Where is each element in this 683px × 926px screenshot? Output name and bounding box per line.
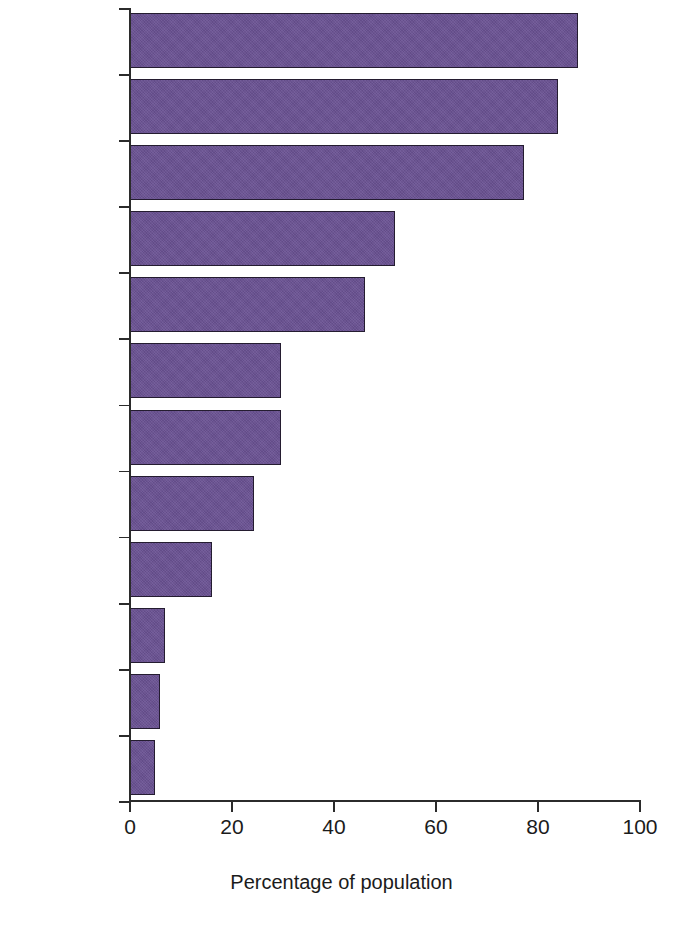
y-axis-tick [119, 8, 130, 10]
bar-argentina [130, 740, 155, 795]
x-axis-title: Percentage of population [0, 872, 683, 892]
x-axis-tick-label: 0 [124, 816, 136, 837]
y-axis-tick [119, 272, 130, 274]
bar-row: Liberia [130, 74, 640, 140]
x-axis-tick [129, 801, 131, 812]
x-axis-tick [639, 801, 641, 812]
y-axis-tick [119, 537, 130, 539]
x-axis-tick-label: 40 [322, 816, 345, 837]
bar-row: India [130, 206, 640, 272]
bar-brazil [130, 674, 160, 729]
bar-row: Argentina [130, 735, 640, 801]
y-axis-tick [119, 405, 130, 407]
x-axis-tick-label: 100 [622, 816, 657, 837]
bar-india [130, 211, 395, 266]
y-axis-tick [119, 603, 130, 605]
x-axis-tick-label: 80 [526, 816, 549, 837]
bar-row: Madagascar [130, 140, 640, 206]
y-axis-tick [119, 74, 130, 76]
y-axis-tick [119, 471, 130, 473]
bar-row: Burundi [130, 8, 640, 74]
y-axis-tick [119, 669, 130, 671]
y-axis-tick [119, 140, 130, 142]
y-axis-tick [119, 206, 130, 208]
bar-vietnam [130, 476, 254, 531]
x-axis-line [129, 800, 641, 802]
bar-pakistan [130, 410, 281, 465]
x-axis-tick-label: 60 [424, 816, 447, 837]
x-axis-tick [231, 801, 233, 812]
x-axis-tick [537, 801, 539, 812]
bar-indonesia [130, 343, 281, 398]
y-axis-tick [119, 338, 130, 340]
bar-row: Estonia [130, 603, 640, 669]
bar-liberia [130, 79, 558, 134]
bar-row: Vietnam [130, 471, 640, 537]
bar-ethiopia [130, 277, 365, 332]
bar-china [130, 542, 212, 597]
x-axis-tick [435, 801, 437, 812]
bar-burundi [130, 13, 578, 68]
bar-estonia [130, 608, 165, 663]
bar-chart: BurundiLiberiaMadagascarIndiaEthiopiaInd… [0, 0, 683, 926]
bar-row: Pakistan [130, 405, 640, 471]
y-axis-tick [119, 735, 130, 737]
bar-row: Brazil [130, 669, 640, 735]
bar-row: China [130, 537, 640, 603]
x-axis-tick [333, 801, 335, 812]
bar-madagascar [130, 145, 524, 200]
x-axis-tick-label: 20 [220, 816, 243, 837]
bar-row: Ethiopia [130, 272, 640, 338]
bar-row: Indonesia [130, 338, 640, 404]
plot-area: BurundiLiberiaMadagascarIndiaEthiopiaInd… [130, 8, 640, 801]
